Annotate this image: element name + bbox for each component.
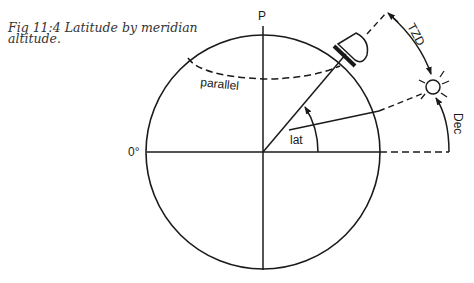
sun-direction-line [289, 111, 379, 130]
dec-label: Dec [451, 113, 465, 134]
lat-arc [305, 107, 318, 152]
dec-arc [436, 98, 449, 152]
sun-icon [419, 71, 449, 99]
latitude-label: lat [290, 133, 303, 147]
observer-radius [263, 54, 346, 152]
equator-label: 0° [128, 145, 140, 159]
tzd-arrow-start [388, 13, 398, 22]
latitude-diagram: P 0° parallel lat TZD Dec [0, 0, 474, 283]
parallel-label: parallel [200, 75, 240, 93]
sun-direction-dashed [379, 93, 424, 111]
pole-label: P [258, 9, 266, 23]
zenith-dashed-line [367, 13, 386, 34]
